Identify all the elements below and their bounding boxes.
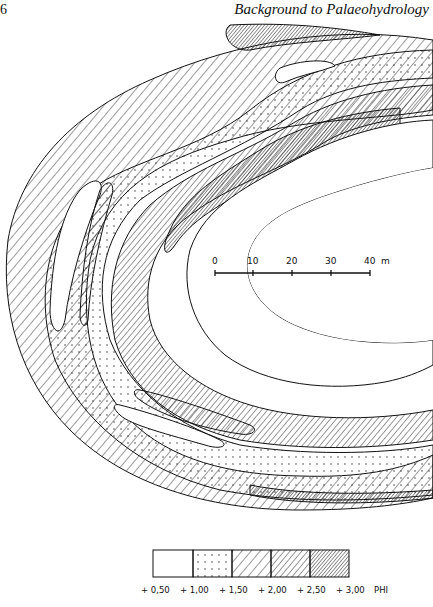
legend-swatch-blank xyxy=(153,550,193,577)
scale-tick-0: 0 xyxy=(212,256,218,266)
legend-swatch-wide-hatch xyxy=(232,550,271,577)
legend-swatch-dense-hatch xyxy=(310,550,349,577)
legend: + 0,50 + 1,00 + 1,50 + 2,00 + 2,50 + 3,0… xyxy=(141,550,388,595)
legend-label-1: + 1,00 xyxy=(180,585,209,595)
scale-tick-20: 20 xyxy=(286,256,298,266)
scale-unit: m xyxy=(381,256,390,266)
legend-label-5: + 3,00 xyxy=(336,585,365,595)
legend-label-3: + 2,00 xyxy=(258,585,287,595)
legend-label-0: + 0,50 xyxy=(141,585,170,595)
scale-tick-30: 30 xyxy=(325,256,337,266)
meander-grain-size-map: 0 10 20 30 40 m + 0,50 + 1,00 + 1,50 + 2… xyxy=(0,0,433,607)
scale-tick-40: 40 xyxy=(364,256,376,266)
legend-label-2: + 1,50 xyxy=(219,585,248,595)
legend-swatch-medium-hatch xyxy=(271,550,310,577)
legend-unit: PHI xyxy=(374,585,388,595)
scale-tick-10: 10 xyxy=(247,256,259,266)
legend-swatch-dots xyxy=(193,550,232,577)
legend-label-4: + 2,50 xyxy=(297,585,326,595)
